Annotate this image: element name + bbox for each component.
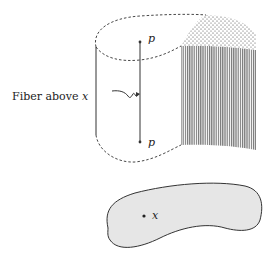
squiggle-arrow-icon — [112, 91, 139, 98]
total-space-hatched-region — [181, 46, 256, 150]
point-label-top: p — [148, 32, 155, 45]
fiber-line — [139, 41, 142, 144]
fiber-bundle-diagram: Fiber above x p p x — [0, 0, 274, 261]
base-point — [142, 214, 145, 217]
point-label-bottom: p — [148, 136, 155, 149]
bottom-dashed-boundary — [96, 135, 181, 162]
base-space-region — [107, 183, 262, 247]
arrowhead-icon — [136, 92, 140, 97]
fiber-caption: Fiber above x — [12, 90, 89, 103]
base-point-label: x — [152, 209, 159, 222]
fiber-bottom-point — [139, 141, 142, 144]
fiber-top-point — [139, 41, 142, 44]
